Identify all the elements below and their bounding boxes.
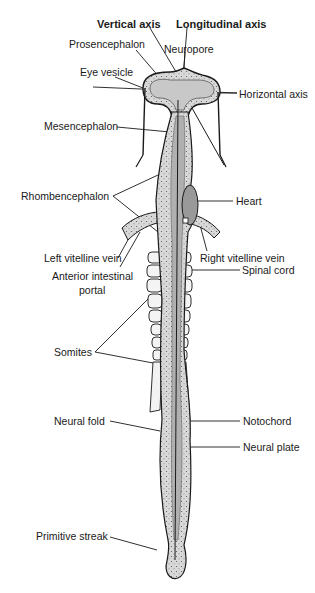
- prosencephalon-label: Prosencephalon: [69, 38, 145, 50]
- rhombencephalon-label: Rhombencephalon: [21, 190, 109, 202]
- neural-fold-label: Neural fold: [54, 415, 105, 427]
- right-vitelline-vein-label: Right vitelline vein: [200, 252, 285, 264]
- somites-label: Somites: [54, 346, 92, 358]
- mesencephalon-label: Mesencephalon: [44, 120, 118, 132]
- heart-label: Heart: [236, 195, 262, 207]
- eye-vesicle-label: Eye vesicle: [80, 66, 133, 78]
- neural-plate-label: Neural plate: [243, 441, 300, 453]
- vertical-axis-label: Vertical axis: [97, 18, 161, 30]
- notochord-label: Notochord: [243, 415, 291, 427]
- anterior-intestinal-portal-label-2: portal: [79, 284, 105, 296]
- primitive-streak-label: Primitive streak: [36, 530, 108, 542]
- neuropore-label: Neuropore: [164, 43, 214, 55]
- horizontal-axis-label: Horizontal axis: [239, 88, 308, 100]
- longitudinal-axis-label: Longitudinal axis: [176, 18, 266, 30]
- anterior-intestinal-portal-label: Anterior intestinal: [52, 270, 133, 282]
- spinal-cord-label: Spinal cord: [242, 264, 295, 276]
- left-vitelline-vein-label: Left vitelline vein: [44, 252, 122, 264]
